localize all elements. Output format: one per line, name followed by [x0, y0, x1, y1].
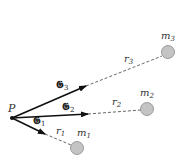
distance-r2-label: r2 — [112, 96, 122, 109]
point-p — [10, 116, 14, 120]
mass-m2 — [141, 103, 154, 116]
distance-line-r2 — [88, 110, 141, 114]
point-p-label: P — [7, 102, 16, 115]
mass-m3-label: m3 — [161, 30, 175, 43]
mass-m1 — [71, 142, 84, 155]
vector-g3-label: 𝕲3 — [56, 79, 68, 92]
vector-g2-label: 𝕲2 — [62, 101, 74, 114]
mass-m3 — [162, 46, 175, 59]
vector-g3-arrow — [12, 86, 86, 118]
mass-m2-label: m2 — [140, 87, 154, 100]
distance-r1-label: r1 — [56, 125, 65, 138]
mass-m1-label: m1 — [77, 127, 91, 140]
gravitational-field-diagram: P m3 m2 m1 r3 r2 r1 𝕲3 𝕲2 𝕲1 — [0, 0, 188, 168]
distance-r3-label: r3 — [124, 53, 134, 66]
vector-g2-arrow — [12, 114, 88, 118]
